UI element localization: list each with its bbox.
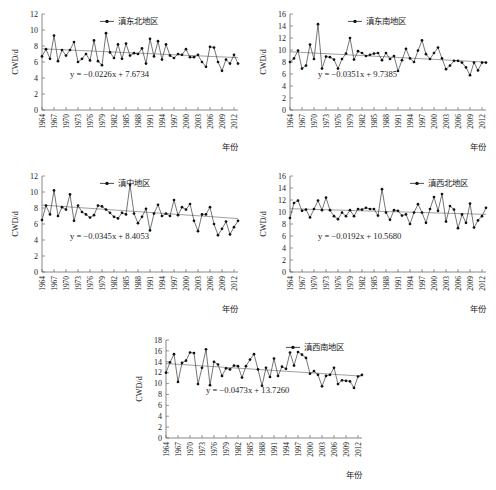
data-point [301,353,304,356]
data-point [197,383,200,386]
y-tick-label: 14 [278,184,286,193]
y-tick-label: 12 [278,34,286,43]
data-point [417,49,420,52]
y-axis-title: CWD/d [259,211,268,236]
data-point [49,213,52,216]
y-tick-label: 4 [282,82,286,91]
data-point [177,53,180,56]
x-tick-label: 1967 [298,276,307,291]
data-point [137,53,140,56]
data-point [185,208,188,211]
data-point [433,196,436,199]
data-point [189,351,192,354]
data-point [361,373,364,376]
x-tick-label: 1982 [358,114,367,129]
data-point [457,227,460,230]
y-tick-label: 10 [278,208,286,217]
line-chart-5: 024681012141618CWD/d19641967197019731976… [124,326,372,490]
x-tick-label: 2012 [478,114,487,129]
data-point [85,213,88,216]
data-point [105,32,108,35]
data-point [453,208,456,211]
data-point [349,209,352,212]
regression-equation: y = −0.0226x + 7.6734 [70,69,150,79]
x-tick-label: 2009 [342,442,351,457]
data-point [173,353,176,356]
x-tick-label: 1964 [38,276,47,291]
x-tick-label: 2006 [206,276,215,291]
line-chart-1: 024681012CWD/d19641967197019731976197919… [0,0,248,160]
regression-equation: y = −0.0351x + 9.7385 [318,69,397,79]
data-point [305,357,308,360]
data-point [149,229,152,232]
data-point [169,54,172,57]
data-point [285,368,288,371]
data-point [129,54,132,57]
data-point [273,357,276,360]
data-point [353,58,356,61]
data-point [485,61,488,64]
data-point [117,217,120,220]
x-tick-label: 2009 [218,276,227,291]
data-point [193,352,196,355]
y-tick-label: 14 [278,22,286,31]
data-point [181,53,184,56]
data-point [209,45,212,48]
data-point [449,64,452,67]
data-point [465,221,468,224]
y-axis-title: CWD/d [11,49,20,74]
x-tick-label: 2000 [430,114,439,129]
x-tick-label: 1973 [322,114,331,129]
data-point [293,57,296,60]
data-point [301,67,304,70]
x-tick-label: 1988 [258,442,267,457]
x-tick-label: 1994 [406,276,415,291]
y-tick-label: 12 [278,196,286,205]
y-tick-label: 2 [158,423,162,432]
data-point [333,366,336,369]
legend-marker-icon [415,182,418,185]
data-point [457,59,460,62]
data-point [165,212,168,215]
data-point [53,189,56,192]
data-point [153,212,156,215]
data-point [193,56,196,59]
y-tick-label: 0 [158,434,162,443]
data-point [169,361,172,364]
data-point [157,203,160,206]
data-point [201,366,204,369]
data-point [161,215,164,218]
data-point [481,61,484,64]
data-point [449,205,452,208]
x-tick-label: 1997 [294,442,303,457]
data-point [341,211,344,214]
data-point [413,61,416,64]
x-tick-label: 1997 [170,276,179,291]
data-point [469,202,472,205]
x-tick-label: 1979 [346,114,355,129]
data-point [381,188,384,191]
x-tick-label: 1976 [86,114,95,129]
x-tick-label: 1976 [334,276,343,291]
data-point [145,62,148,65]
data-point [321,385,324,388]
data-point [165,371,168,374]
data-point [229,368,232,371]
data-point [425,53,428,56]
x-tick-label: 1979 [98,114,107,129]
data-point [297,351,300,354]
data-point [365,206,368,209]
data-point [461,213,464,216]
axis-lines [290,176,486,272]
x-tick-label: 1994 [158,276,167,291]
data-point [73,41,76,44]
data-point [89,216,92,219]
data-point [313,370,316,373]
data-point [237,219,240,222]
y-tick-label: 10 [30,188,38,197]
data-point [349,37,352,40]
axis-lines [290,14,486,110]
data-point [221,227,224,230]
data-point [121,211,124,214]
data-point [373,208,376,211]
